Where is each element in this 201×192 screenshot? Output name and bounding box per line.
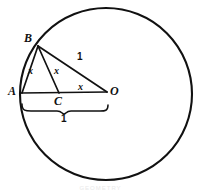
point-label-b: B [24,32,32,44]
measure-label-x-co: x [78,82,83,92]
segment-ao [21,92,107,93]
circle-outline [20,8,192,180]
measure-label-x-ab: x [28,66,33,76]
point-label-c: C [54,95,62,107]
geometry-figure: A B C O x x x 1 1 GEOMETRY [0,0,201,192]
measure-label-one-ao: 1 [61,114,67,124]
point-label-o: O [110,85,119,97]
figure-canvas [0,0,201,192]
measure-label-one-bo: 1 [77,52,83,62]
point-label-a: A [8,85,16,97]
measure-label-x-bc: x [54,66,59,76]
figure-caption: GEOMETRY [0,185,201,191]
